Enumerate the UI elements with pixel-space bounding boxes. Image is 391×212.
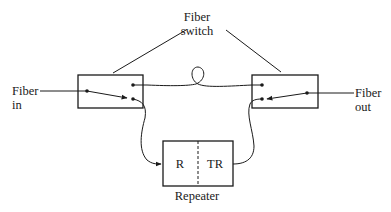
transmitter-label: TR: [207, 157, 224, 171]
diagram-svg: Fiber switch R TR Repeater Fiber in Fibe…: [0, 0, 391, 212]
left-switch-arm: [87, 91, 127, 98]
fiber-in-label-line2: in: [12, 98, 22, 112]
fiber-bypass-switch-diagram: Fiber switch R TR Repeater Fiber in Fibe…: [0, 0, 391, 212]
fiber-out-label-line2: out: [355, 100, 372, 114]
bypass-fiber-loop: [133, 67, 262, 86]
leader-line-left: [113, 30, 186, 73]
right-switch-arm: [267, 93, 307, 99]
fiber-switch-label-line2: switch: [181, 24, 214, 38]
receiver-label: R: [176, 157, 185, 171]
fiber-switch-label-line1: Fiber: [184, 10, 211, 24]
repeater-label: Repeater: [175, 189, 220, 203]
leader-line-right: [226, 30, 281, 72]
fiber-out-label-line1: Fiber: [355, 86, 382, 100]
fiber-to-receiver: [133, 99, 161, 164]
fiber-in-label-line1: Fiber: [12, 84, 39, 98]
right-switch-top-contact: [260, 83, 264, 87]
fiber-from-transmitter: [233, 99, 262, 164]
right-fiber-switch: [252, 75, 318, 108]
